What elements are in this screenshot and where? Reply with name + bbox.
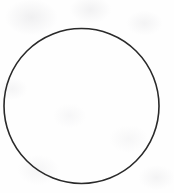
circle-figure-svg (0, 0, 174, 193)
circle-outline-shape (4, 29, 159, 184)
drawing-canvas: Scanned line drawing of a single empty c… (0, 0, 174, 193)
